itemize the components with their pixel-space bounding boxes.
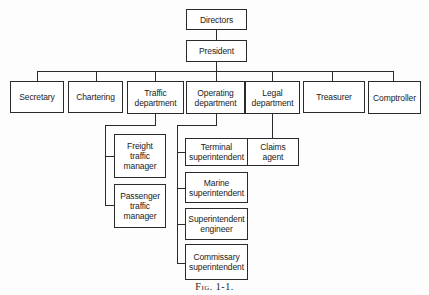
box-traffic-department: Traffic department (127, 81, 184, 114)
connector-operating (216, 71, 217, 81)
org-chart: Directors President Secretary Chartering… (0, 0, 429, 295)
connector-terminal (177, 152, 185, 153)
connector-freight (105, 156, 114, 157)
label-comptroller: Comptroller (373, 93, 416, 103)
label-operating-department: Operating department (195, 88, 237, 108)
label-marine-superintendent: Marine superintendent (189, 178, 244, 198)
figure-caption: Fig. 1-1. (0, 281, 429, 292)
label-passenger-traffic-manager: Passenger traffic manager (120, 191, 160, 221)
connector-passenger (105, 205, 114, 206)
box-superintendent-engineer: Superintendent engineer (185, 208, 248, 240)
box-president: President (186, 40, 247, 62)
box-operating-department: Operating department (186, 81, 245, 114)
box-directors: Directors (186, 9, 247, 30)
label-commissary-superintendent: Commissary superintendent (189, 252, 244, 272)
box-chartering: Chartering (68, 81, 123, 113)
box-claims-agent: Claims agent (247, 138, 299, 166)
connector-engineer (177, 224, 185, 225)
box-comptroller: Comptroller (368, 81, 421, 114)
connector-marine (177, 188, 185, 189)
label-directors: Directors (200, 15, 233, 25)
label-terminal-superintendent: Terminal superintendent (189, 142, 244, 162)
label-freight-traffic-manager: Freight traffic manager (124, 141, 157, 171)
box-terminal-superintendent: Terminal superintendent (185, 138, 248, 166)
connector-commissary (177, 263, 185, 264)
connector-operating-spine (177, 125, 178, 264)
connector-comptroller (393, 71, 394, 81)
label-secretary: Secretary (19, 92, 54, 102)
connector-directors-president (216, 30, 217, 40)
connector-secretary (37, 71, 38, 81)
label-president: President (199, 46, 234, 56)
box-commissary-superintendent: Commissary superintendent (185, 244, 248, 280)
connector-traffic-elbow (105, 125, 156, 126)
connector-treasurer (332, 71, 333, 81)
box-legal-department: Legal department (245, 81, 300, 114)
label-legal-department: Legal department (252, 88, 294, 108)
box-passenger-traffic-manager: Passenger traffic manager (114, 184, 166, 228)
connector-legal-claims (272, 114, 273, 139)
connector-traffic (155, 71, 156, 81)
label-treasurer: Treasurer (316, 92, 352, 102)
connector-chartering (96, 71, 97, 81)
label-chartering: Chartering (76, 92, 115, 102)
connector-traffic-spine (105, 125, 106, 206)
label-traffic-department: Traffic department (135, 88, 177, 108)
box-secretary: Secretary (10, 81, 64, 113)
box-freight-traffic-manager: Freight traffic manager (114, 134, 166, 178)
box-treasurer: Treasurer (303, 81, 365, 113)
connector-legal (272, 71, 273, 81)
connector-operating-elbow (177, 125, 217, 126)
label-claims-agent: Claims agent (260, 142, 285, 162)
label-superintendent-engineer: Superintendent engineer (188, 214, 244, 234)
box-marine-superintendent: Marine superintendent (185, 172, 248, 203)
